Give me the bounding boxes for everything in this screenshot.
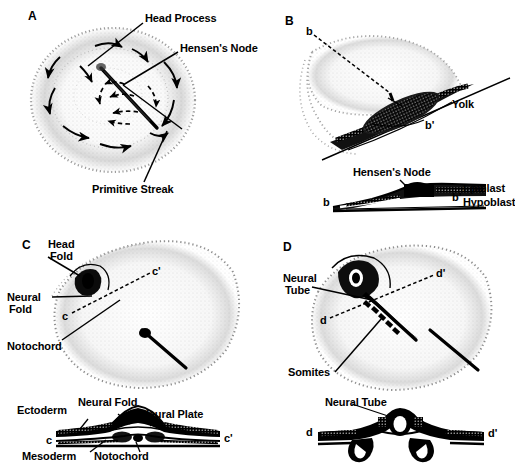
label-neural-tube-line1: Neural bbox=[283, 272, 317, 284]
panel-d-letter: D bbox=[283, 240, 292, 254]
section-mark-d-prime: d' bbox=[436, 267, 445, 279]
label-neural-tube-section: Neural Tube bbox=[325, 396, 387, 408]
label-neural-tube-line2: Tube bbox=[285, 284, 310, 296]
cross-section-mark-d-prime: d' bbox=[488, 427, 497, 439]
label-somites: Somites bbox=[288, 366, 330, 378]
cross-section-mark-d: d bbox=[306, 426, 313, 438]
section-mark-d: d bbox=[320, 314, 327, 326]
cross-section-d bbox=[318, 408, 484, 462]
